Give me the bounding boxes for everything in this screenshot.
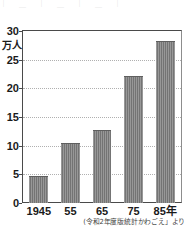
x-tick-label: 55 — [64, 205, 76, 217]
y-axis: 万人 051015202530 — [0, 0, 22, 228]
y-tick-mark — [19, 117, 22, 118]
x-tick-label: 75 — [127, 205, 139, 217]
y-tick-label: 25 — [7, 55, 19, 66]
bar — [156, 41, 175, 203]
x-tick-label: 85年 — [154, 205, 177, 217]
bar — [124, 76, 143, 203]
y-tick-label: 15 — [7, 112, 19, 123]
y-tick-label: 20 — [7, 83, 19, 94]
y-tick-mark — [19, 203, 22, 204]
bar — [29, 176, 48, 203]
x-axis: 194555657585年 — [0, 205, 187, 219]
y-tick-mark — [19, 88, 22, 89]
cropped-text-strip: ｜ ＿ ｜ ＿ ｜ ＿ ｜ — [0, 0, 187, 8]
source-note: (令和2年度版統計かわごえ」より — [83, 218, 185, 227]
bar — [93, 130, 112, 203]
x-tick-label: 65 — [96, 205, 108, 217]
y-tick-mark — [19, 60, 22, 61]
y-tick-mark — [19, 174, 22, 175]
y-tick-label: 10 — [7, 141, 19, 152]
bar-chart-figure: ｜ ＿ ｜ ＿ ｜ ＿ ｜ 万人 051015202530 1945556575… — [0, 0, 187, 228]
y-tick-label: 30 — [7, 26, 19, 37]
y-tick-mark — [19, 31, 22, 32]
plot-area — [23, 31, 181, 203]
y-axis-unit-label: 万人 — [2, 41, 22, 51]
x-tick-label: 1945 — [27, 205, 51, 217]
bar — [61, 143, 80, 203]
y-tick-mark — [19, 146, 22, 147]
